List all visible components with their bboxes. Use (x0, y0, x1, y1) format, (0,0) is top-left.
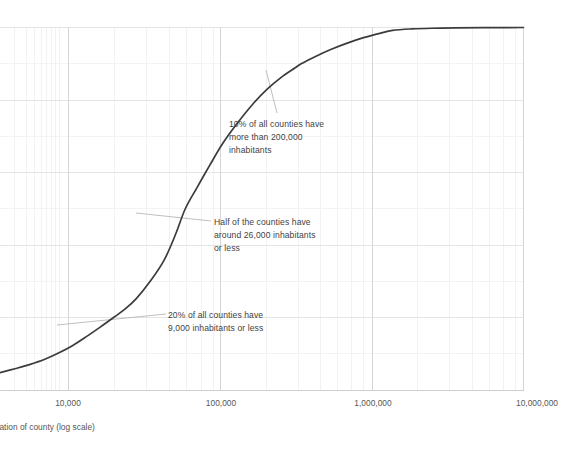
annotation-median-text: Half of the counties have around 26,000 … (214, 216, 344, 256)
annotation-leader-lines (57, 70, 277, 325)
annotation-10-percent-text: 10% of all counties have more than 200,0… (229, 118, 359, 158)
x-tick-label-10000000: 10,000,000 (516, 398, 558, 409)
x-tick-label-10000: 10,000 (55, 398, 81, 409)
x-tick-label-1000000: 1,000,000 (354, 398, 391, 409)
leader-line-10-percent (266, 70, 277, 113)
leader-line-median (136, 213, 211, 221)
major-horizontal-gridlines (0, 28, 524, 318)
cumulative-distribution-chart: 10% of all counties have more than 200,0… (0, 0, 579, 458)
annotation-20-percent-text: 20% of all counties have 9,000 inhabitan… (168, 309, 308, 335)
x-axis-title: Population of county (log scale) (0, 422, 95, 433)
x-tick-label-100000: 100,000 (206, 398, 236, 409)
